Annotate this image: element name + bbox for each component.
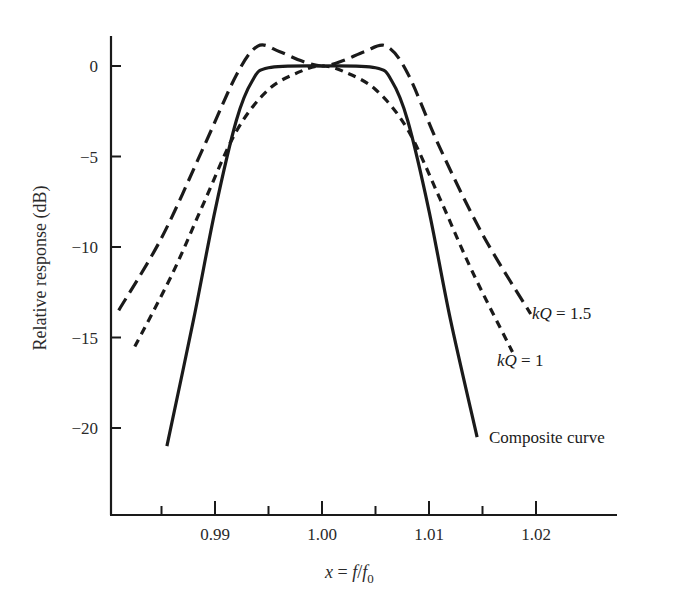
series-labels: kQ = 1.5kQ = 1Composite curve <box>489 304 605 447</box>
curve-kq-1-5 <box>119 45 531 314</box>
curve-kq-1 <box>135 66 513 352</box>
y-tick-label: −10 <box>71 238 98 257</box>
label-composite-curve: Composite curve <box>489 428 605 447</box>
y-ticks: 0−5−10−15−20 <box>71 57 121 438</box>
y-tick-label: −15 <box>71 329 98 348</box>
y-tick-label: −5 <box>80 148 98 167</box>
label-kq-1: kQ = 1 <box>497 351 543 370</box>
label-kq-1-5: kQ = 1.5 <box>532 304 591 323</box>
x-tick-label: 1.01 <box>414 525 444 544</box>
y-axis-label: Relative response (dB) <box>30 186 51 351</box>
y-tick-label: −20 <box>71 419 98 438</box>
x-tick-label: 1.00 <box>307 525 337 544</box>
curves <box>119 45 531 446</box>
x-ticks: 0.991.001.011.02 <box>162 501 551 544</box>
x-tick-label: 1.02 <box>521 525 551 544</box>
y-tick-label: 0 <box>90 57 99 76</box>
response-chart: 0−5−10−15−20 0.991.001.011.02 kQ = 1.5kQ… <box>0 0 674 613</box>
x-tick-label: 0.99 <box>200 525 230 544</box>
x-axis-label: x = f/f0 <box>324 562 374 586</box>
